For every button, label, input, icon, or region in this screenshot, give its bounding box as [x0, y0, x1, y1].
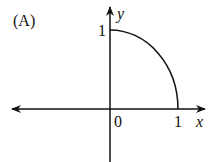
y-tick-label: 1: [98, 23, 106, 39]
quarter-circle-curve: [110, 30, 178, 109]
y-axis-label: y: [117, 6, 124, 22]
x-tick-label: 1: [174, 114, 182, 130]
origin-label: 0: [114, 114, 122, 130]
figure-label: (A): [13, 13, 35, 29]
x-axis-label: x: [196, 114, 203, 130]
